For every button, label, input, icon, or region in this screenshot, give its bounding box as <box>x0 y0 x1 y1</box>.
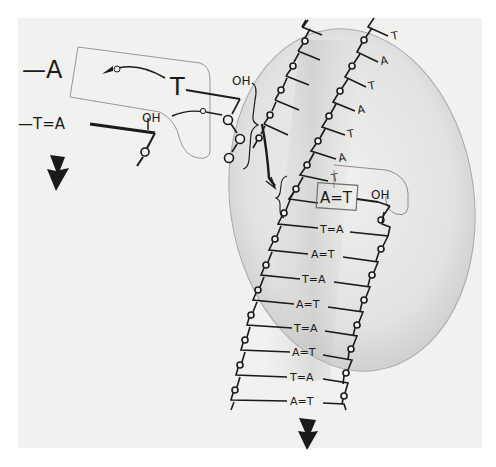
duplex-pair: T=A <box>289 371 314 384</box>
duplex-pair: T=A <box>301 273 326 286</box>
incoming-hydroxyl: OH <box>232 74 250 88</box>
left-base-label: —A <box>22 56 63 84</box>
primer-hydroxyl: OH <box>142 111 160 125</box>
duplex-pair: A=T <box>296 298 320 311</box>
left-pair-label: —T=A <box>18 115 66 133</box>
incoming-base: T <box>169 73 185 101</box>
duplex-pair: T=A <box>319 223 344 236</box>
duplex-pair: T=A <box>293 322 318 335</box>
active-site-pair-label: A=T <box>320 189 353 207</box>
duplex-pair: A=T <box>290 395 314 408</box>
dna-polymerase-diagram: —A —T=A OH T OH <box>0 0 496 467</box>
duplex-pair: A=T <box>311 248 335 261</box>
active-site-hydroxyl: OH <box>371 188 389 202</box>
duplex-pair: A=T <box>292 346 316 359</box>
